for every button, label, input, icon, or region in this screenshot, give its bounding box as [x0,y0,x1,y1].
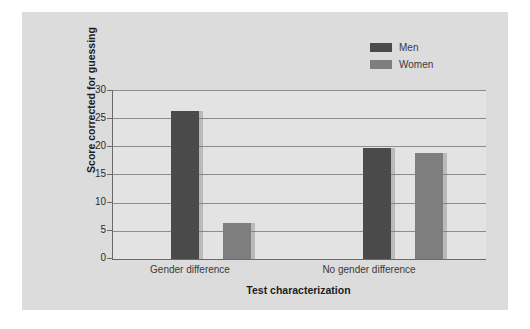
y-tick-label-25: 25 [84,113,106,123]
legend-swatch-women [370,60,392,69]
gridline-20 [113,146,486,147]
legend-item-women: Women [370,57,480,71]
y-tick-label-5: 5 [84,225,106,235]
plot-area [112,90,486,260]
gridline-30 [113,90,486,91]
legend-item-men: Men [370,40,480,54]
x-tick-label-no-gender-difference: No gender difference [304,264,434,275]
bar-women-gender-difference[interactable] [223,223,251,259]
x-tick-label-gender-difference: Gender difference [130,264,250,275]
legend: Men Women [370,40,480,74]
legend-label-women: Women [399,59,433,70]
legend-label-men: Men [399,42,418,53]
y-tick-label-30: 30 [84,85,106,95]
bar-men-gender-difference[interactable] [171,111,199,259]
x-axis-title: Test characterization [112,284,485,296]
gridline-25 [113,118,486,119]
y-axis-title: Score corrected for guessing [85,5,97,195]
y-tick-label-20: 20 [84,141,106,151]
bar-women-no-gender-difference[interactable] [415,153,443,259]
bar-men-no-gender-difference[interactable] [363,148,391,259]
figure-panel: Men Women Score corrected for guessing 3… [22,12,508,310]
y-tick-label-10: 10 [84,197,106,207]
y-tick-label-15: 15 [84,169,106,179]
y-tick-label-0: 0 [84,253,106,263]
legend-swatch-men [370,43,392,52]
